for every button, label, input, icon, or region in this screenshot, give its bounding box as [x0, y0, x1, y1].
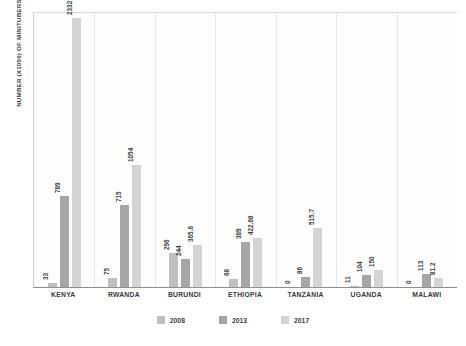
bar-group: 757151054	[94, 13, 154, 287]
legend-label: 2008	[170, 317, 185, 324]
bar-value-label: 789	[54, 182, 61, 193]
bar-group: 68389422.68	[215, 13, 275, 287]
bar-value-label: 244	[175, 245, 182, 256]
legend-label: 2017	[294, 317, 309, 324]
bar-group: 11104150	[336, 13, 396, 287]
bar-group: 086515.7	[276, 13, 336, 287]
bar-value-label: 33	[42, 273, 49, 280]
bar-slot: 1054	[132, 13, 141, 287]
bar-value-label: 1054	[126, 148, 133, 162]
bar-value-label: 113	[416, 261, 423, 271]
bar-value-label: 515.7	[307, 209, 314, 225]
bar-value-label: 296	[163, 239, 170, 250]
x-axis-category-label: BURUNDI	[154, 291, 215, 305]
bar-slot: 33	[48, 13, 57, 287]
bar-group: 011381.2	[397, 13, 457, 287]
legend: 200820132017	[0, 316, 466, 324]
legend-item[interactable]: 2008	[157, 316, 185, 324]
x-axis-category-label: MALAWI	[396, 291, 457, 305]
bar[interactable]	[193, 245, 202, 287]
bar[interactable]	[108, 278, 117, 287]
bar-value-label: 11	[344, 276, 351, 283]
x-axis-category-label: KENYA	[33, 291, 94, 305]
bar[interactable]	[350, 286, 359, 287]
bar-slot: 81.2	[434, 13, 443, 287]
bar-slot: 244	[181, 13, 190, 287]
bar[interactable]	[362, 275, 371, 287]
bar-value-label: 150	[368, 256, 375, 267]
bar-value-label: 389	[235, 228, 242, 239]
x-axis-category-label: TANZANIA	[275, 291, 336, 305]
bar-slot: 113	[422, 13, 431, 287]
bar[interactable]	[229, 279, 238, 287]
bar-slot: 150	[374, 13, 383, 287]
y-axis-title-text: NUMBER (X1000) OF MINITUBERS PRODUCED	[15, 0, 22, 107]
legend-swatch-icon	[281, 316, 289, 324]
bar-value-label: 81.2	[428, 262, 435, 274]
bar[interactable]	[241, 242, 250, 287]
bar-value-label: 365.6	[187, 226, 194, 242]
bar[interactable]	[72, 18, 81, 287]
bar-slot: 104	[362, 13, 371, 287]
bar-value-label: 422.68	[247, 216, 254, 236]
bar-slot: 75	[108, 13, 117, 287]
bar-value-label: 86	[295, 267, 302, 274]
bar[interactable]	[132, 165, 141, 287]
y-axis-title: NUMBER (X1000) OF MINITUBERS PRODUCED	[10, 30, 26, 240]
legend-swatch-icon	[219, 316, 227, 324]
bar[interactable]	[374, 270, 383, 287]
bar[interactable]	[422, 274, 431, 287]
bar[interactable]	[120, 205, 129, 287]
bar[interactable]	[181, 259, 190, 287]
legend-item[interactable]: 2013	[219, 316, 247, 324]
legend-label: 2013	[232, 317, 247, 324]
bar-slot: 389	[241, 13, 250, 287]
x-axis-category-label: RWANDA	[94, 291, 155, 305]
bar[interactable]	[313, 228, 322, 287]
bar-slot: 11	[350, 13, 359, 287]
bar-value-label: 104	[356, 261, 363, 272]
bar-value-label: 715	[114, 191, 121, 202]
bar[interactable]	[434, 278, 443, 287]
bar-value-label: 2332	[66, 1, 73, 15]
bar[interactable]	[253, 238, 262, 287]
bar-slot: 365.6	[193, 13, 202, 287]
bar[interactable]	[60, 196, 69, 287]
bar-value-label: 75	[102, 268, 109, 275]
x-axis-category-label: UGANDA	[336, 291, 397, 305]
bar[interactable]	[48, 283, 57, 287]
bar-value-label: 0	[404, 280, 411, 284]
x-axis-labels: KENYARWANDABURUNDIETHIOPIATANZANIAUGANDA…	[33, 291, 457, 305]
bar-chart-figure: NUMBER (X1000) OF MINITUBERS PRODUCED 33…	[0, 0, 466, 346]
bar[interactable]	[169, 253, 178, 287]
bar-value-label: 68	[223, 269, 230, 276]
plot-area: 337892332757151054296244365.668389422.68…	[33, 12, 457, 288]
bar-slot: 86	[301, 13, 310, 287]
bar-slot: 515.7	[313, 13, 322, 287]
bar-slot: 0	[410, 13, 419, 287]
x-axis-category-label: ETHIOPIA	[215, 291, 276, 305]
bar-slot: 789	[60, 13, 69, 287]
bar-group: 337892332	[34, 13, 94, 287]
bar-group: 296244365.6	[155, 13, 215, 287]
bar-slot: 2332	[72, 13, 81, 287]
bar-slot: 68	[229, 13, 238, 287]
legend-swatch-icon	[157, 316, 165, 324]
bar-value-label: 0	[283, 280, 290, 284]
bar-groups: 337892332757151054296244365.668389422.68…	[34, 13, 457, 287]
legend-item[interactable]: 2017	[281, 316, 309, 324]
bar-slot: 0	[289, 13, 298, 287]
bar-slot: 422.68	[253, 13, 262, 287]
bar[interactable]	[301, 277, 310, 287]
